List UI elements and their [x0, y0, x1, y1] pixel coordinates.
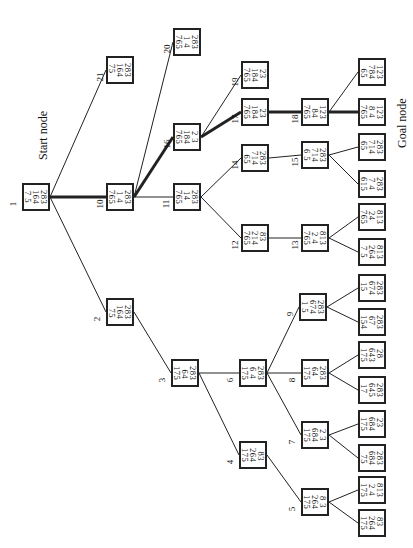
puzzle-state: 8 3264175 — [303, 489, 327, 515]
tree-node-10: 2831 4765 — [106, 183, 134, 211]
tree-edge — [134, 312, 171, 373]
tree-node-8: 28364 175 — [301, 359, 329, 387]
tree-node-L9a: 28367415 — [358, 274, 386, 302]
node-number-label: 4 — [225, 460, 235, 465]
puzzle-state: 23 684175 — [360, 411, 384, 437]
puzzle-state: 1238 4765 — [360, 99, 384, 125]
puzzle-state: 2 3184765 — [175, 124, 199, 150]
tree-node-L5a: 8132 4175 — [358, 476, 386, 504]
node-number-label: 16 — [162, 140, 172, 149]
puzzle-state: 2831 4765 — [108, 184, 132, 210]
tree-node-9: 2836741 5 — [299, 293, 327, 321]
node-number-label: 21 — [95, 73, 105, 82]
node-number-label: 1 — [8, 202, 18, 207]
puzzle-state: 283164 75 — [108, 299, 132, 325]
tree-node-20: 2831 4765 — [173, 28, 201, 56]
tree-edge — [199, 373, 239, 455]
tree-edge — [329, 424, 358, 435]
puzzle-state: 123784 65 — [360, 59, 384, 85]
node-number-label: 18 — [290, 115, 300, 124]
puzzle-state: 28364517 — [360, 377, 384, 403]
tree-edge — [50, 197, 106, 312]
goal-node-caption: Goal node — [395, 98, 410, 148]
tree-edge — [134, 42, 173, 197]
node-number-label: 14 — [230, 161, 240, 170]
node-number-label: 10 — [95, 200, 105, 209]
tree-node-L7b: 283684 75 — [358, 444, 386, 472]
puzzle-state: 123 84765 — [303, 99, 327, 125]
puzzle-state: 283684 75 — [360, 445, 384, 471]
tree-node-19: 23 184765 — [241, 61, 269, 89]
tree-edges — [0, 0, 413, 548]
tree-node-15: 2837146 5 — [301, 141, 329, 169]
puzzle-state: 83 264175 — [360, 510, 384, 536]
tree-edge — [329, 217, 358, 238]
tree-node-21: 28316475 — [106, 56, 134, 84]
tree-node-1: 2831647 5 — [22, 183, 50, 211]
puzzle-state: 283714 65 — [243, 145, 267, 171]
tree-node-L15b: 2837 4615 — [358, 170, 386, 198]
tree-edge — [267, 307, 299, 373]
tree-node-L7a: 23 684175 — [358, 410, 386, 438]
puzzle-state: 2831 4765 — [175, 29, 199, 55]
tree-edge — [327, 288, 358, 307]
tree-edge — [50, 70, 106, 197]
puzzle-state: 2836 4175 — [241, 360, 265, 386]
tree-node-2: 283164 75 — [106, 298, 134, 326]
puzzle-state: 81324 765 — [360, 204, 384, 230]
tree-node-14: 283714 65 — [241, 144, 269, 172]
puzzle-state: 83264175 — [241, 442, 265, 468]
tree-edge — [329, 72, 358, 112]
tree-node-12: 83 214765 — [241, 224, 269, 252]
tree-node-13: 8132 4765 — [301, 224, 329, 252]
tree-edge — [327, 307, 358, 322]
puzzle-state: 2831647 5 — [24, 184, 48, 210]
puzzle-state: 28316475 — [108, 57, 132, 83]
puzzle-state: 8132 4765 — [303, 225, 327, 251]
node-number-label: 13 — [290, 241, 300, 250]
node-number-label: 15 — [290, 158, 300, 167]
tree-edge — [329, 502, 358, 523]
tree-node-L8b: 28364517 — [358, 376, 386, 404]
tree-edge — [329, 355, 358, 373]
tree-edge — [267, 455, 301, 502]
tree-node-L5b: 83 264175 — [358, 509, 386, 537]
node-number-label: 6 — [225, 378, 235, 383]
puzzle-state: 28367415 — [360, 275, 384, 301]
puzzle-state: 2837 4615 — [360, 171, 384, 197]
tree-node-5: 8 3264175 — [301, 488, 329, 516]
puzzle-state: 28314 765 — [175, 184, 199, 210]
tree-edge — [329, 155, 358, 184]
node-number-label: 19 — [230, 78, 240, 87]
puzzle-state: 8132647 5 — [360, 239, 384, 265]
tree-node-L18b: 1238 4765 — [358, 98, 386, 126]
puzzle-state: 28364 175 — [303, 360, 327, 386]
node-number-label: 11 — [161, 200, 171, 209]
node-number-label: 3 — [157, 378, 167, 383]
tree-edge — [267, 373, 301, 435]
puzzle-state: 28367 154 — [360, 309, 384, 335]
puzzle-state: 28371465 — [360, 134, 384, 160]
tree-edge — [329, 147, 358, 155]
tree-edge — [329, 435, 358, 458]
tree-node-L8a: 28 643175 — [358, 341, 386, 369]
tree-edge — [329, 373, 358, 390]
tree-node-6: 2836 4175 — [239, 359, 267, 387]
tree-edge — [201, 197, 241, 238]
tree-node-16: 2 3184765 — [173, 123, 201, 151]
node-number-label: 12 — [230, 241, 240, 250]
node-number-label: 8 — [287, 378, 297, 383]
tree-node-11: 28314 765 — [173, 183, 201, 211]
puzzle-state: 23184765 — [243, 99, 267, 125]
tree-node-L9b: 28367 154 — [358, 308, 386, 336]
tree-edge — [329, 490, 358, 502]
tree-node-7: 2 3684175 — [301, 421, 329, 449]
tree-edge — [329, 238, 358, 252]
tree-node-L13b: 8132647 5 — [358, 238, 386, 266]
tree-node-3: 283 64175 — [171, 359, 199, 387]
puzzle-state: 28 643175 — [360, 342, 384, 368]
tree-node-18: 123 84765 — [301, 98, 329, 126]
node-number-label: 9 — [285, 312, 295, 317]
tree-node-4: 83264175 — [239, 441, 267, 469]
puzzle-state: 283 64175 — [173, 360, 197, 386]
